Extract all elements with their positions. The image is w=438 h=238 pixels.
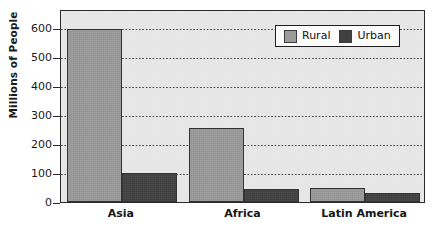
bar-latin-america-urban [365,193,420,202]
y-axis-tick-mark [53,116,60,117]
y-axis-tick-mark [53,145,60,146]
legend-swatch-urban-icon [339,30,352,43]
x-axis-tick-label: Africa [224,207,260,220]
y-axis-tick-mark [53,87,60,88]
y-axis-tick-label: 100 [18,168,52,179]
y-axis-tick-labels: 0100200300400500600 [14,0,52,238]
legend: Rural Urban [275,25,400,47]
y-axis-tick-mark [53,174,60,175]
bar-africa-urban [244,189,299,202]
bar-asia-rural [67,29,122,202]
bar-chart: Millions of People 0100200300400500600 R… [0,0,438,238]
y-axis-tick-mark [53,203,60,204]
y-axis-tick-label: 200 [18,139,52,150]
y-axis-tick-mark [53,29,60,30]
y-axis-tick-label: 0 [18,197,52,208]
y-axis-tick-mark [53,58,60,59]
bar-asia-urban [122,173,177,202]
y-axis-tick-label: 600 [18,23,52,34]
legend-swatch-rural-icon [284,30,297,43]
x-axis-tick-labels: AsiaAfricaLatin America [60,207,425,223]
y-axis-tick-label: 400 [18,81,52,92]
legend-label-urban: Urban [357,30,390,42]
legend-item-rural: Rural [284,30,330,43]
y-axis-tick-label: 500 [18,52,52,63]
bar-latin-america-rural [310,188,365,203]
legend-item-urban: Urban [339,30,390,43]
x-axis-tick-label: Asia [108,207,134,220]
legend-label-rural: Rural [302,30,330,42]
y-axis-tick-label: 300 [18,110,52,121]
bar-africa-rural [189,128,244,202]
x-axis-tick-label: Latin America [321,207,407,220]
plot-area: Rural Urban [60,10,425,203]
